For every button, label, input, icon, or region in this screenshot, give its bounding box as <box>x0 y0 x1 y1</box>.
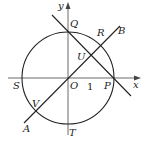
x-axis-label: x <box>133 79 139 90</box>
point-label-B: B <box>117 25 125 36</box>
point-label-O: O <box>70 80 78 91</box>
y-axis-label: y <box>57 0 64 11</box>
point-label-T: T <box>69 127 77 138</box>
point-label-Q: Q <box>70 18 78 29</box>
point-label-A: A <box>22 123 30 134</box>
point-label-U: U <box>77 51 86 62</box>
y-axis-arrow-icon <box>66 2 71 9</box>
geometry-diagram: y x Q R B U S O 1 P V A T <box>0 0 147 148</box>
point-label-R: R <box>96 27 105 38</box>
tick-label-1: 1 <box>87 81 93 92</box>
point-label-P: P <box>103 80 111 91</box>
point-label-S: S <box>13 80 20 91</box>
